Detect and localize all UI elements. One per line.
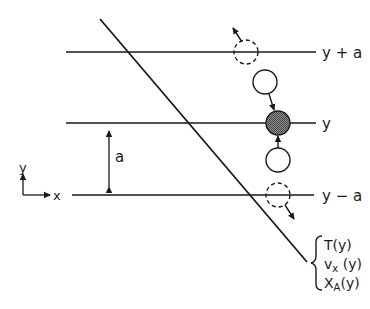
particle-shaded-reference [266,111,290,135]
level-label-upper: y + a [322,44,362,62]
arrow-from-above [269,94,274,110]
profile-label-velocity: vx (y) [324,256,362,274]
arrow-lower-departure [285,205,294,219]
profile-line [100,19,307,262]
arrow-upper-departure [233,28,242,42]
y-axis-label: y [19,160,27,175]
x-axis-label: x [53,188,61,203]
coordinate-axes: y x [19,160,61,203]
profile-label-temperature: T(y) [323,237,352,253]
momentum-transfer-diagram: y + a y y − a a y x T(y) vx (y) XA(y) [0,0,370,309]
particle-open-upper [253,70,277,94]
spacing-label: a [115,148,124,166]
level-label-middle: y [322,115,331,133]
curly-brace [311,236,322,290]
particle-open-lower [266,148,290,172]
profile-label-concentration: XA(y) [324,275,360,293]
level-label-lower: y − a [322,187,362,205]
